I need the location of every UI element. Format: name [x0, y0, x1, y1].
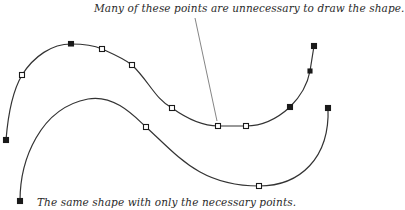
anchor-point[interactable] — [170, 106, 175, 111]
top-caption: Many of these points are unnecessary to … — [94, 2, 405, 14]
anchor-point[interactable] — [130, 63, 135, 68]
anchor-point[interactable] — [216, 124, 221, 129]
redundant-anchor-points — [4, 42, 317, 143]
anchor-point[interactable] — [20, 73, 25, 78]
leader-line — [195, 18, 217, 121]
redundant-points-curve — [6, 44, 314, 140]
anchor-point[interactable] — [244, 124, 249, 129]
anchor-point[interactable] — [326, 106, 331, 111]
anchor-point[interactable] — [69, 42, 74, 47]
anchor-point[interactable] — [100, 47, 105, 52]
necessary-anchor-points — [18, 106, 331, 204]
anchor-point[interactable] — [288, 105, 293, 110]
anchor-point[interactable] — [18, 199, 23, 204]
anchor-point[interactable] — [312, 44, 317, 49]
anchor-point[interactable] — [4, 138, 9, 143]
anchor-point[interactable] — [308, 69, 312, 73]
anchor-point[interactable] — [144, 125, 149, 130]
anchor-point[interactable] — [257, 184, 262, 189]
bottom-caption: The same shape with only the necessary p… — [37, 196, 296, 208]
